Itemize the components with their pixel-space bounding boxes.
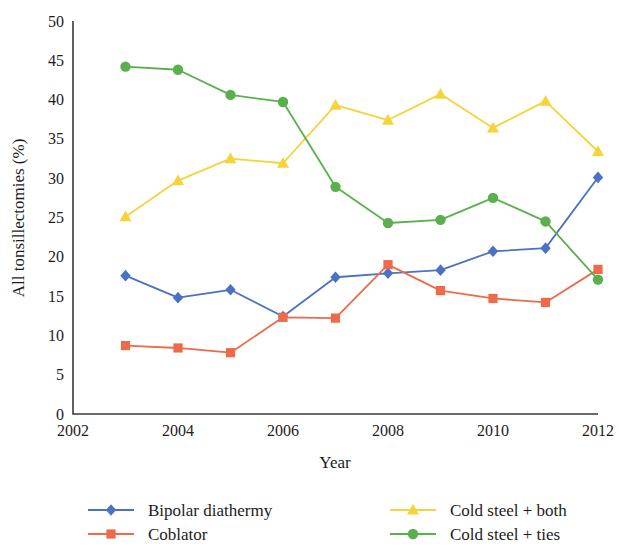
data-point-triangle [540,95,552,106]
data-point-triangle [225,152,237,163]
x-tick-label: 2012 [582,422,614,439]
y-tick-label: 20 [48,248,64,265]
x-tick-label: 2004 [162,422,194,439]
axis-lines [73,21,598,414]
legend-item-3[interactable]: Cold steel + ties [390,525,560,544]
data-point-square [383,260,392,269]
data-point-triangle [435,88,447,99]
data-point-diamond [488,245,498,257]
data-point-diamond [225,284,235,296]
data-point-square [593,265,602,274]
y-tick-label: 35 [48,130,64,147]
data-point-circle [408,529,418,539]
data-point-circle [120,61,130,71]
x-axis-title: Year [319,453,351,472]
legend-label: Cold steel + both [450,501,567,520]
x-tick-label: 2006 [267,422,299,439]
data-point-square [436,286,445,295]
data-point-circle [435,215,445,225]
axis-frame [73,21,598,414]
y-tick-label: 45 [48,52,64,69]
series-0 [120,172,603,323]
series-3 [120,61,603,284]
y-tick-label: 10 [48,327,64,344]
data-point-diamond [106,504,116,516]
line-chart: 05101520253035404550 2002200420062008201… [0,0,619,550]
data-point-triangle [330,99,342,110]
data-point-triangle [487,122,499,133]
data-point-diamond [173,292,183,304]
y-axis-tick-labels: 05101520253035404550 [48,13,64,423]
data-point-square [106,529,115,538]
y-tick-label: 15 [48,288,64,305]
data-point-square [173,343,182,352]
data-point-circle [225,90,235,100]
x-tick-label: 2008 [372,422,404,439]
data-point-circle [278,97,288,107]
data-series-group [120,61,605,357]
data-point-triangle [120,211,132,222]
y-axis-title: All tonsillectomies (%) [9,139,28,298]
y-tick-label: 30 [48,170,64,187]
x-tick-label: 2010 [477,422,509,439]
series-line [126,94,599,217]
data-point-diamond [435,264,445,276]
data-point-square [541,298,550,307]
y-tick-label: 5 [56,366,64,383]
chart-legend: Bipolar diathermyCoblatorCold steel + bo… [88,501,567,544]
data-point-square [331,314,340,323]
data-point-diamond [120,270,130,282]
series-2 [120,88,605,221]
y-tick-label: 40 [48,91,64,108]
series-line [126,177,599,316]
data-point-diamond [330,271,340,283]
legend-label: Bipolar diathermy [148,501,273,520]
legend-label: Coblator [148,525,208,544]
y-tick-label: 50 [48,13,64,30]
y-tick-label: 25 [48,209,64,226]
data-point-circle [173,65,183,75]
legend-item-1[interactable]: Coblator [88,525,208,544]
x-tick-label: 2002 [57,422,89,439]
data-point-circle [383,218,393,228]
data-point-square [226,348,235,357]
data-point-square [278,313,287,322]
data-point-circle [488,193,498,203]
data-point-circle [540,216,550,226]
series-line [126,265,599,353]
legend-label: Cold steel + ties [450,525,560,544]
chart-figure: 05101520253035404550 2002200420062008201… [0,0,619,550]
data-point-circle [330,182,340,192]
data-point-circle [593,274,603,284]
data-point-square [488,294,497,303]
data-point-square [121,341,130,350]
legend-item-0[interactable]: Bipolar diathermy [88,501,273,520]
x-axis-tick-labels: 200220042006200820102012 [57,422,614,439]
y-tick-label: 0 [56,406,64,423]
legend-item-2[interactable]: Cold steel + both [390,501,567,520]
